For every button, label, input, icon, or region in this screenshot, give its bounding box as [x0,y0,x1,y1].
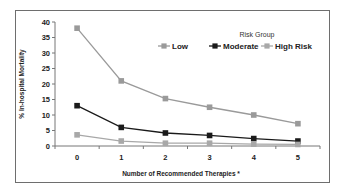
y-tick-label: 15 [42,95,50,104]
data-point-marker [163,130,169,136]
series-moderate [74,103,300,144]
data-point-marker [251,141,257,147]
y-tick-label: 40 [42,18,50,27]
x-tick-label: 1 [119,153,123,162]
x-tick-label: 3 [207,153,211,162]
y-tick-label: 5 [46,126,50,135]
x-axis: 012345 [55,146,320,162]
series-low [74,25,300,126]
data-point-marker [207,140,213,146]
x-tick-label: 0 [75,153,79,162]
line-chart: 0510152025303540 012345 % In-hospital Mo… [0,0,342,196]
data-point-marker [74,132,80,138]
data-point-marker [163,96,169,102]
x-tick-label: 5 [296,153,300,162]
data-point-marker [163,140,169,146]
y-tick-label: 10 [42,111,50,120]
x-tick-label: 2 [163,153,167,162]
legend-title: Risk Group [239,31,274,39]
data-point-marker [207,133,213,139]
data-point-marker [295,121,301,127]
y-axis-title: % In-hospital Mortality [18,49,26,119]
y-tick-label: 25 [42,64,50,73]
legend-label: Moderate [223,42,259,51]
legend-entry-moderate: Moderate [209,42,259,51]
legend-entry-low: Low [158,42,189,51]
data-point-marker [118,125,124,131]
x-tick-label: 4 [252,153,257,162]
legend: Risk Group LowModerateHigh Risk [158,31,312,51]
y-tick-label: 35 [42,33,50,42]
y-axis: 0510152025303540 [42,18,55,151]
y-tick-label: 20 [42,80,50,89]
legend-label: High Risk [275,42,312,51]
data-point-marker [251,136,257,142]
data-point-marker [118,78,124,84]
data-point-marker [207,104,213,110]
y-tick-label: 30 [42,49,50,58]
data-point-marker [118,138,124,144]
x-axis-title: Number of Recommended Therapies * [122,170,240,178]
data-point-marker [74,25,80,31]
legend-label: Low [172,42,189,51]
data-point-marker [251,112,257,118]
y-tick-label: 0 [46,142,50,151]
legend-entry-high-risk: High Risk [261,42,312,51]
data-point-marker [295,142,301,148]
data-point-marker [74,103,80,109]
